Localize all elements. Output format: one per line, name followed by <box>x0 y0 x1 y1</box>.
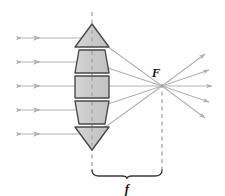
outgoing-ray-5 <box>162 86 205 118</box>
optics-diagram-figure: F f <box>0 0 225 196</box>
outgoing-ray-2 <box>162 70 209 86</box>
focal-point-label: F <box>151 65 161 80</box>
prism-top-triangle <box>75 24 109 47</box>
outgoing-ray-4 <box>162 86 209 102</box>
refracted-rays-group <box>104 44 162 128</box>
refracted-ray-5 <box>104 86 162 128</box>
outgoing-ray-1 <box>162 54 205 86</box>
focal-length-label: f <box>125 181 131 196</box>
focal-length-bracket <box>92 170 162 179</box>
refracted-ray-4 <box>108 86 162 104</box>
optics-diagram-canvas: F f <box>0 0 225 196</box>
outgoing-rays-group <box>162 54 212 118</box>
